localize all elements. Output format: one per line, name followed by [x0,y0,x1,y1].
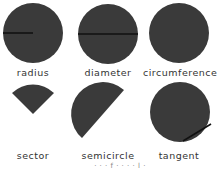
diameter-figure [78,4,138,64]
semicircle-figure [71,82,124,138]
label-sector: sector [0,150,69,161]
sector-figure [12,84,54,114]
tangent-figure [150,82,211,142]
label-circumference: circumference [143,67,215,78]
label-tangent: tangent [143,150,215,161]
radius-figure [3,3,63,63]
label-semicircle: semicircle [72,150,144,161]
circumference-figure [149,3,209,63]
footer-fragment: · · · f · · · · l · [70,162,170,170]
circle-parts-diagram [0,0,219,170]
label-radius: radius [0,67,69,78]
label-diameter: diameter [72,67,144,78]
